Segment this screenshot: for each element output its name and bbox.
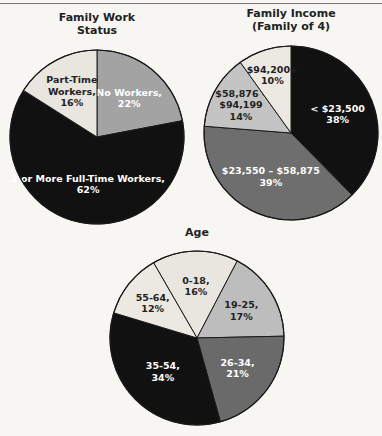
pie-family-income: Family Income(Family of 4)< $23,50038%$2… [204,7,378,220]
chart-title: Family Work [59,11,136,24]
chart-title: Status [77,24,118,37]
pie-age: Age0-18,16%19-25,17%26-34,21%35-54,34%55… [110,226,284,425]
chart-title: Age [185,226,209,239]
pie-family-work-status: Family WorkStatusNo Workers,22%1 or More… [10,11,184,224]
chart-title: (Family of 4) [252,20,330,33]
slice-label-0-18: 0-18,16% [182,275,209,298]
pie-charts: Family WorkStatusNo Workers,22%1 or More… [0,0,382,436]
chart-title: Family Income [246,7,335,20]
